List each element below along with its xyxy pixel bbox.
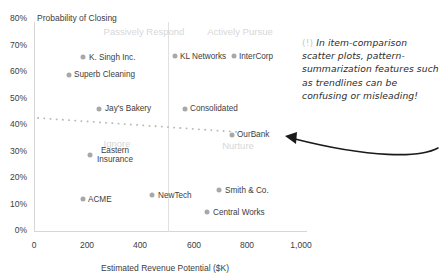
data-point-consolidated[interactable] xyxy=(182,106,187,111)
data-point-label: Jay's Bakery xyxy=(105,104,151,113)
data-point-label: Central Works xyxy=(213,208,265,217)
data-point-central-works[interactable] xyxy=(204,210,209,215)
data-point-newtech[interactable] xyxy=(150,193,155,198)
x-tick-label: 600 xyxy=(174,240,214,250)
data-point-label: Smith & Co. xyxy=(225,186,269,195)
x-tick-label: 0 xyxy=(14,240,54,250)
y-tick-label: 10% xyxy=(3,199,27,209)
x-tick-label: 1,000 xyxy=(281,240,321,250)
y-tick-label: 70% xyxy=(3,40,27,50)
data-point-kl-networks[interactable] xyxy=(172,54,177,59)
quadrant-label-nurture: Nurture xyxy=(173,140,303,151)
plot-area: Passively Respond Actively Pursue Ignore… xyxy=(34,22,307,232)
x-tick-label: 200 xyxy=(67,240,107,250)
data-point-label: Consolidated xyxy=(190,104,238,113)
y-tick-label: 30% xyxy=(3,146,27,156)
annotation-text: In item-comparison scatter plots, patter… xyxy=(302,37,439,101)
data-point-label: K. Singh Inc. xyxy=(89,53,135,62)
data-point-label: InterCorp xyxy=(239,52,273,61)
x-axis-title: Estimated Revenue Potential ($K) xyxy=(101,263,229,273)
data-point-jays-bakery[interactable] xyxy=(97,106,102,111)
y-tick-label: 0% xyxy=(3,225,27,235)
y-tick-label: 80% xyxy=(3,13,27,23)
data-point-label: KL Networks xyxy=(180,52,226,61)
y-tick-label: 20% xyxy=(3,172,27,182)
data-point-label: Eastern Insurance xyxy=(97,146,133,164)
y-tick-label: 60% xyxy=(3,66,27,76)
x-tick-label: 400 xyxy=(120,240,160,250)
warning-exclamation-icon: (!) xyxy=(302,37,313,48)
data-point-k-singh-inc[interactable] xyxy=(81,55,86,60)
y-tick-label: 50% xyxy=(3,93,27,103)
data-point-superb-cleaning[interactable] xyxy=(66,72,71,77)
quadrant-divider xyxy=(168,22,169,232)
data-point-smith-and-co[interactable] xyxy=(216,188,221,193)
data-point-eastern-insurance[interactable] xyxy=(88,152,93,157)
scatter-chart: Probability of Closing Estimated Revenue… xyxy=(0,0,442,280)
data-point-intercorp[interactable] xyxy=(231,54,236,59)
data-point-label: Superb Cleaning xyxy=(74,70,135,79)
data-point-label: NewTech xyxy=(158,191,192,200)
data-point-acme[interactable] xyxy=(80,197,85,202)
x-tick-label: 800 xyxy=(227,240,267,250)
data-point-label: ACME xyxy=(88,195,112,204)
data-point-ourbank[interactable] xyxy=(229,132,234,137)
annotation-callout: (!) In item-comparison scatter plots, pa… xyxy=(302,36,440,102)
quadrant-label-actively-pursue: Actively Pursue xyxy=(175,26,305,37)
y-tick-label: 40% xyxy=(3,119,27,129)
data-point-label: OurBank xyxy=(237,130,269,139)
